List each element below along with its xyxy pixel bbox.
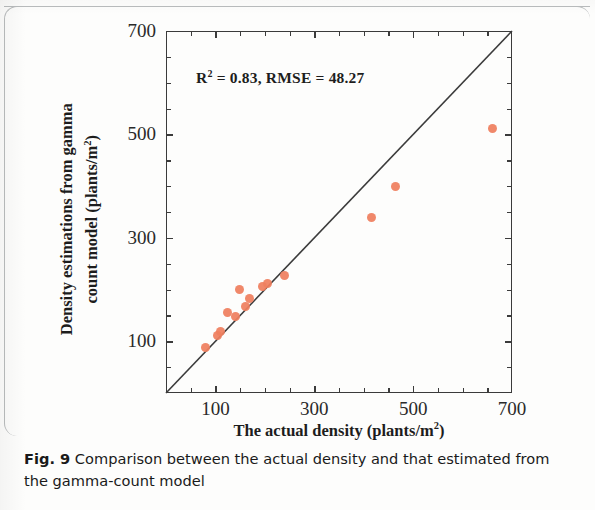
- data-point: [201, 343, 210, 352]
- x-tick-top: [463, 31, 464, 36]
- y-tick: [166, 83, 171, 84]
- figure-caption: Fig. 9 Comparison between the actual den…: [24, 448, 569, 492]
- y-tick: [166, 290, 171, 291]
- r-symbol: R: [196, 69, 207, 86]
- x-tick-top: [240, 31, 241, 36]
- figure-number: Fig. 9: [24, 450, 70, 467]
- x-tick-top: [339, 31, 340, 36]
- data-point: [231, 312, 240, 321]
- x-tick: [191, 388, 192, 393]
- x-tick-top: [487, 31, 488, 36]
- y-tick-right: [507, 57, 512, 58]
- y-tick: [166, 212, 171, 213]
- y-tick-label: 100: [104, 330, 156, 352]
- data-point: [367, 213, 376, 222]
- x-tick: [487, 388, 488, 393]
- x-tick: [314, 386, 315, 393]
- x-tick-label: 500: [399, 398, 428, 420]
- x-tick: [215, 386, 216, 393]
- y-axis-title-line2-end: ): [82, 135, 101, 141]
- figure-caption-text: Comparison between the actual density an…: [24, 450, 549, 489]
- y-tick-right: [507, 109, 512, 110]
- y-tick-right: [505, 238, 512, 239]
- y-tick-label: 700: [104, 20, 156, 42]
- stats-values: = 0.83, RMSE = 48.27: [213, 69, 365, 86]
- y-tick-right: [507, 264, 512, 265]
- data-point: [235, 285, 244, 294]
- x-tick-label: 700: [498, 398, 527, 420]
- y-tick-label: 300: [104, 227, 156, 249]
- x-axis-title-main: The actual density (plants/m: [233, 421, 433, 440]
- data-point: [263, 279, 272, 288]
- x-tick: [290, 388, 291, 393]
- stats-annotation: R2 = 0.83, RMSE = 48.27: [196, 68, 365, 87]
- data-point: [245, 294, 254, 303]
- data-point: [488, 124, 497, 133]
- y-tick-right: [507, 315, 512, 316]
- y-tick: [166, 315, 171, 316]
- y-tick-right: [505, 134, 512, 135]
- y-tick: [166, 109, 171, 110]
- y-axis-title-line2-superscript: 2: [82, 141, 93, 146]
- x-tick: [413, 386, 414, 393]
- x-tick-top: [413, 31, 414, 38]
- x-tick-top: [290, 31, 291, 36]
- y-tick: [166, 186, 171, 187]
- x-tick-top: [438, 31, 439, 36]
- y-axis-title-line2-main: count model (plants/m: [82, 146, 101, 304]
- x-tick-top: [265, 31, 266, 36]
- x-tick: [364, 388, 365, 393]
- y-tick: [166, 367, 171, 368]
- y-tick: [166, 341, 173, 342]
- y-tick: [166, 264, 171, 265]
- y-axis-title-line1: Density estimations from gamma: [56, 44, 77, 394]
- data-point: [391, 182, 400, 191]
- y-tick-right: [507, 290, 512, 291]
- data-point: [280, 271, 289, 280]
- y-tick: [166, 57, 171, 58]
- y-tick-right: [507, 83, 512, 84]
- y-tick: [166, 134, 173, 135]
- y-tick-right: [507, 160, 512, 161]
- x-tick-top: [215, 31, 216, 38]
- x-tick-top: [388, 31, 389, 36]
- x-tick: [463, 388, 464, 393]
- y-tick: [166, 238, 173, 239]
- y-axis-title: Density estimations from gamma count mod…: [56, 44, 103, 394]
- y-tick-right: [507, 212, 512, 213]
- y-tick-label: 500: [104, 123, 156, 145]
- x-tick-label: 100: [201, 398, 230, 420]
- x-tick-top: [191, 31, 192, 36]
- x-tick-top: [364, 31, 365, 36]
- y-tick: [166, 160, 171, 161]
- x-tick-label: 300: [300, 398, 329, 420]
- x-axis-title-end: ): [439, 421, 445, 440]
- x-tick-top: [314, 31, 315, 38]
- x-axis-title: The actual density (plants/m2): [166, 420, 512, 441]
- scanned-page: 100300500700100300500700 R2 = 0.83, RMSE…: [0, 0, 595, 510]
- y-tick-right: [507, 186, 512, 187]
- x-tick: [240, 388, 241, 393]
- y-tick-right: [507, 367, 512, 368]
- y-tick-right: [505, 341, 512, 342]
- y-axis-title-line2: count model (plants/m2): [77, 44, 103, 394]
- x-tick: [438, 388, 439, 393]
- x-tick: [388, 388, 389, 393]
- x-tick: [339, 388, 340, 393]
- figure-border-top: [4, 6, 590, 7]
- x-tick: [265, 388, 266, 393]
